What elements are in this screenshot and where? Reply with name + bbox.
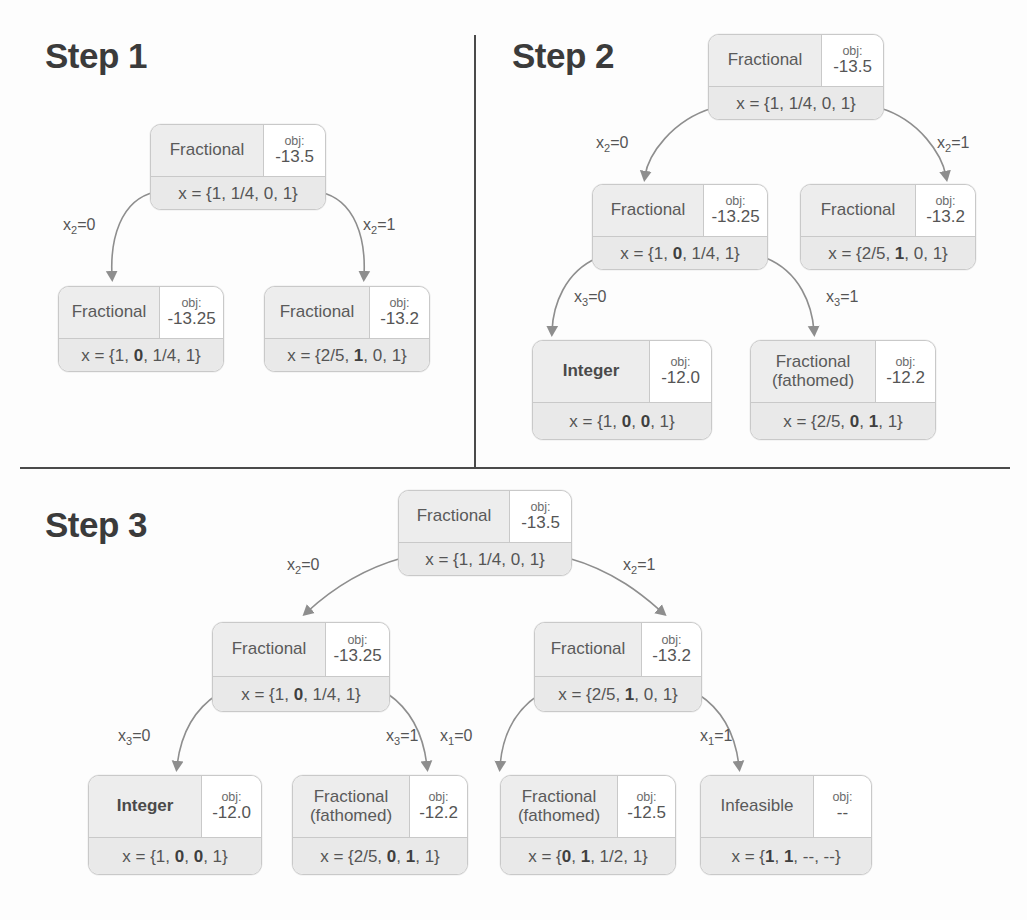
node-obj-cell: obj: -12.2	[409, 776, 467, 837]
node-status-line1: Fractional	[518, 788, 600, 806]
node-solution: x = {1, 0, 0, 1}	[533, 403, 711, 440]
solution-text: x = {1, 0, 1/4, 1}	[620, 244, 740, 264]
node-status-line2: (fathomed)	[518, 807, 600, 825]
node-top-row: Fractional obj: -13.5	[709, 35, 883, 87]
solution-text: x = {2/5, 1, 0, 1}	[287, 346, 407, 366]
edge-val: =1	[400, 727, 418, 744]
edge-val: =0	[454, 727, 472, 744]
obj-label: obj:	[935, 195, 955, 208]
edge-label-s2-right: x2=1	[937, 134, 969, 154]
node-status: Fractional (fathomed)	[501, 776, 617, 837]
node-s1-right[interactable]: Fractional obj: -13.2 x = {2/5, 1, 0, 1}	[264, 286, 430, 372]
edge-var: x	[623, 556, 631, 573]
obj-label: obj:	[832, 791, 852, 804]
node-status: Fractional	[151, 125, 263, 176]
node-obj-cell: obj: -13.5	[821, 35, 883, 86]
node-obj-cell: obj: -12.5	[617, 776, 675, 837]
node-status: Fractional	[709, 35, 821, 86]
edge-var: x	[386, 727, 394, 744]
node-solution: x = {1, 1, --, --}	[701, 838, 871, 875]
panel-title-step1: Step 1	[45, 36, 147, 76]
node-s2-left[interactable]: Fractional obj: -13.25 x = {1, 0, 1/4, 1…	[592, 184, 768, 270]
solution-text: x = {0, 1, 1/2, 1}	[528, 847, 648, 867]
obj-label: obj:	[725, 195, 745, 208]
solution-text: x = {1, 0, 1/4, 1}	[81, 346, 201, 366]
node-top-row: Fractional obj: -13.2	[535, 623, 701, 677]
node-s3-right[interactable]: Fractional obj: -13.2 x = {2/5, 1, 0, 1}	[534, 622, 702, 712]
node-status-line2: (fathomed)	[772, 372, 854, 390]
node-s3-lr[interactable]: Fractional (fathomed) obj: -12.2 x = {2/…	[292, 775, 468, 875]
edge-var: x	[937, 134, 945, 151]
node-top-row: Fractional obj: -13.2	[801, 185, 975, 237]
node-top-row: Integer obj: -12.0	[89, 776, 261, 838]
edge-val: =1	[637, 556, 655, 573]
obj-value: -13.2	[926, 208, 965, 227]
node-status-lines: Fractional (fathomed)	[772, 353, 854, 390]
obj-label: obj:	[842, 45, 862, 58]
edge-label-s1-right: x2=1	[363, 216, 395, 236]
node-top-row: Fractional (fathomed) obj: -12.2	[751, 341, 935, 403]
node-solution: x = {1, 1/4, 0, 1}	[709, 87, 883, 120]
obj-label: obj:	[530, 501, 550, 514]
node-s3-left[interactable]: Fractional obj: -13.25 x = {1, 0, 1/4, 1…	[212, 622, 390, 712]
node-s2-lr[interactable]: Fractional (fathomed) obj: -12.2 x = {2/…	[750, 340, 936, 440]
edge-label-s3-lr: x3=1	[386, 727, 418, 747]
edge-label-s3-ll: x3=0	[118, 727, 150, 747]
node-s2-right[interactable]: Fractional obj: -13.2 x = {2/5, 1, 0, 1}	[800, 184, 976, 270]
solution-text: x = {2/5, 1, 0, 1}	[828, 244, 948, 264]
node-status: Fractional	[59, 287, 159, 338]
node-top-row: Infeasible obj: --	[701, 776, 871, 838]
node-solution: x = {1, 1/4, 0, 1}	[151, 177, 325, 210]
edge-label-s2-ll: x3=0	[574, 288, 606, 308]
obj-value: -12.5	[627, 804, 666, 823]
node-status-lines: Fractional (fathomed)	[518, 788, 600, 825]
obj-label: obj:	[389, 297, 409, 310]
node-s2-ll[interactable]: Integer obj: -12.0 x = {1, 0, 0, 1}	[532, 340, 712, 440]
node-status-line1: Fractional	[772, 353, 854, 371]
obj-value: -12.0	[661, 369, 700, 388]
edge-var: x	[700, 727, 708, 744]
node-s1-left[interactable]: Fractional obj: -13.25 x = {1, 0, 1/4, 1…	[58, 286, 224, 372]
node-solution: x = {0, 1, 1/2, 1}	[501, 838, 675, 875]
edge-label-s3-right: x2=1	[623, 556, 655, 576]
obj-value: -13.5	[275, 148, 314, 167]
node-top-row: Fractional obj: -13.25	[593, 185, 767, 237]
obj-label: obj:	[636, 791, 656, 804]
node-status-line2: (fathomed)	[310, 807, 392, 825]
node-s3-ll[interactable]: Integer obj: -12.0 x = {1, 0, 0, 1}	[88, 775, 262, 875]
edge-val: =1	[840, 288, 858, 305]
obj-value: -13.5	[521, 514, 560, 533]
node-obj-cell: obj: -12.0	[649, 341, 711, 402]
node-s3-rr[interactable]: Infeasible obj: -- x = {1, 1, --, --}	[700, 775, 872, 875]
obj-label: obj:	[670, 356, 690, 369]
solution-text: x = {1, 1, --, --}	[731, 847, 840, 867]
edge-var: x	[574, 288, 582, 305]
node-s1-root[interactable]: Fractional obj: -13.5 x = {1, 1/4, 0, 1}	[150, 124, 326, 210]
node-status: Integer	[89, 776, 201, 837]
node-top-row: Fractional (fathomed) obj: -12.2	[293, 776, 467, 838]
node-obj-cell: obj: -13.25	[159, 287, 223, 338]
edge-label-s3-rl: x1=0	[440, 727, 472, 747]
obj-value: -12.2	[886, 369, 925, 388]
node-s3-root[interactable]: Fractional obj: -13.5 x = {1, 1/4, 0, 1}	[398, 490, 572, 576]
node-solution: x = {1, 0, 0, 1}	[89, 838, 261, 875]
edge-label-s2-left: x2=0	[596, 134, 628, 154]
edge-label-s3-rr: x1=1	[700, 727, 732, 747]
node-s3-rl[interactable]: Fractional (fathomed) obj: -12.5 x = {0,…	[500, 775, 676, 875]
edge-var: x	[440, 727, 448, 744]
diagram-canvas: Step 1 Fractional obj: -13.5 x = {1, 1/4…	[0, 0, 1027, 920]
obj-value: --	[837, 804, 848, 823]
node-solution: x = {2/5, 0, 1, 1}	[293, 838, 467, 875]
node-top-row: Integer obj: -12.0	[533, 341, 711, 403]
node-top-row: Fractional obj: -13.5	[151, 125, 325, 177]
node-solution: x = {2/5, 1, 0, 1}	[265, 339, 429, 372]
node-status: Fractional	[593, 185, 703, 236]
edge-val: =1	[714, 727, 732, 744]
edge-label-s1-left: x2=0	[63, 216, 95, 236]
edge-var: x	[287, 556, 295, 573]
edge-var: x	[118, 727, 126, 744]
node-status: Integer	[533, 341, 649, 402]
node-s2-root[interactable]: Fractional obj: -13.5 x = {1, 1/4, 0, 1}	[708, 34, 884, 120]
edge-var: x	[826, 288, 834, 305]
node-top-row: Fractional (fathomed) obj: -12.5	[501, 776, 675, 838]
